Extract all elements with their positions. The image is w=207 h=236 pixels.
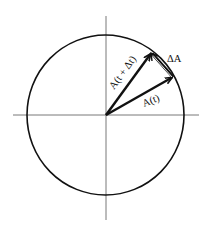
rotating-vector-diagram: A(t + Δt) A(t) ΔA	[0, 0, 207, 236]
label-a-t-plus-dt: A(t + Δt)	[107, 53, 140, 91]
label-delta-a: ΔA	[167, 53, 182, 64]
